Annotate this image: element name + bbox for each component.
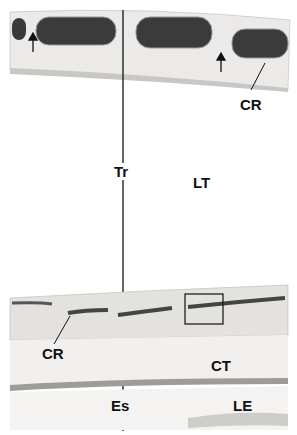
label-cr-top: CR: [240, 97, 262, 112]
histology-micrograph: [0, 0, 297, 435]
label-lt: LT: [193, 175, 210, 190]
label-ct: CT: [211, 358, 231, 373]
label-le: LE: [233, 398, 252, 413]
label-tr: Tr: [113, 163, 129, 180]
label-cr-bottom: CR: [42, 346, 64, 361]
label-es: Es: [111, 398, 129, 413]
